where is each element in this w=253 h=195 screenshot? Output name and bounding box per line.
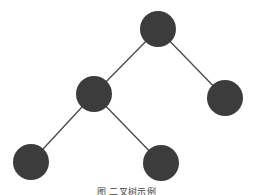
tree-diagram-canvas [0,0,253,195]
binary-tree-figure: 图 二叉树示例 [0,0,253,195]
tree-node-root[interactable] [140,11,176,47]
tree-node-left-child[interactable] [76,76,112,112]
figure-caption: 图 二叉树示例 [0,187,253,195]
tree-node-left-left[interactable] [13,144,49,180]
tree-nodes-group [13,11,243,181]
tree-edges-group [31,29,225,163]
tree-node-right-child[interactable] [207,80,243,116]
tree-node-left-right[interactable] [143,145,179,181]
